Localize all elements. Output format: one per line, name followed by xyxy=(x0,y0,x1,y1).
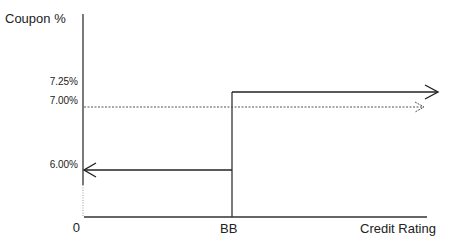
arrow-right-dashed-icon xyxy=(415,102,424,112)
chart-plot xyxy=(0,0,458,248)
